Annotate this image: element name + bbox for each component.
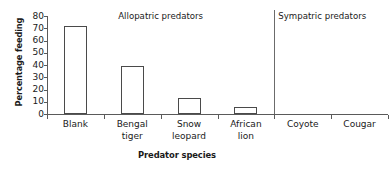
bar (121, 66, 144, 114)
y-tick-label: 0 (24, 110, 44, 119)
y-axis-title: Percentage feeding (14, 2, 24, 122)
y-axis-tick-labels: 01020304050607080 (24, 10, 44, 120)
y-tick-label: 20 (24, 85, 44, 94)
y-tick-label: 50 (24, 48, 44, 57)
y-tick-mark (44, 16, 47, 17)
y-tick-label: 40 (24, 61, 44, 70)
y-tick-label: 60 (24, 36, 44, 45)
y-tick-mark (44, 90, 47, 91)
y-tick-mark (44, 77, 47, 78)
y-tick-label: 30 (24, 73, 44, 82)
x-axis-title: Predator species (47, 150, 307, 160)
y-tick-mark (44, 28, 47, 29)
bar (234, 107, 257, 114)
x-tick-mark (388, 115, 389, 119)
group-label-sympatric: Sympatric predators (278, 11, 366, 21)
y-axis-line (47, 16, 48, 115)
y-tick-label: 10 (24, 97, 44, 106)
x-tick-label: African lion (218, 119, 275, 142)
x-tick-label: Bengal tiger (104, 119, 161, 142)
y-tick-mark (44, 53, 47, 54)
y-tick-mark (44, 41, 47, 42)
x-tick-label: Blank (47, 119, 104, 131)
y-tick-mark (44, 102, 47, 103)
group-label-allopatric: Allopatric predators (118, 11, 203, 21)
bar-chart-figure: Percentage feeding 01020304050607080 All… (0, 0, 392, 180)
bar (178, 98, 201, 114)
y-tick-label: 70 (24, 24, 44, 33)
x-tick-label: Snow leopard (161, 119, 218, 142)
y-tick-mark (44, 65, 47, 66)
plot-area (47, 16, 388, 114)
x-tick-label: Cougar (331, 119, 388, 131)
y-tick-label: 80 (24, 12, 44, 21)
x-tick-label: Coyote (274, 119, 331, 131)
group-divider (274, 10, 275, 114)
bar (64, 26, 87, 114)
